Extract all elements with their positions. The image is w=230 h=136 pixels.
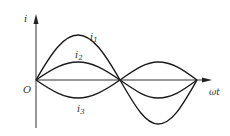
waveform-diagram: i O ωt i1 i2 i3 xyxy=(0,0,230,136)
x-axis-arrow-icon xyxy=(202,78,212,83)
y-axis-arrow-icon xyxy=(34,14,39,24)
y-axis-label: i xyxy=(24,13,27,24)
x-axis-label: ωt xyxy=(209,87,220,97)
curve-i3-label: i3 xyxy=(77,103,85,116)
origin-label: O xyxy=(23,84,31,95)
curve-i2-label: i2 xyxy=(75,49,83,62)
curve-i1-label: i1 xyxy=(90,31,98,44)
